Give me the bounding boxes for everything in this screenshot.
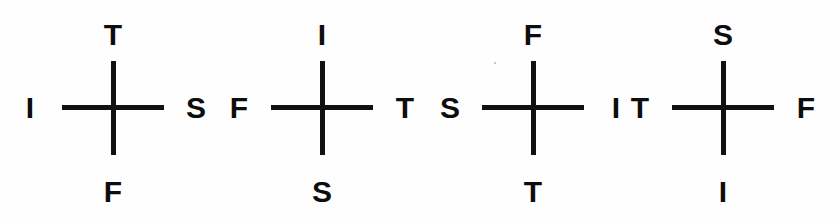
cross-1-left-label: I [26, 93, 34, 123]
cross-3-left-label: S [440, 93, 460, 123]
cross-1-top-label: T [104, 20, 122, 50]
cross-3-top-label: F [524, 20, 542, 50]
cross-1-horizontal-line [62, 105, 164, 110]
cross-diagram-1: T I S F [8, 0, 218, 219]
cross-2-top-label: I [318, 20, 326, 50]
cross-4-right-label: F [797, 93, 815, 123]
cross-1-bottom-label: F [104, 177, 122, 207]
cross-diagram-2: I F T S [217, 0, 427, 219]
cross-diagram-4: S T F I [618, 0, 828, 219]
cross-2-right-label: T [396, 93, 414, 123]
cross-3-horizontal-line [482, 105, 584, 110]
cross-3-bottom-label: T [524, 177, 542, 207]
cross-4-horizontal-line [672, 105, 774, 110]
cross-diagram-3: F S I T [428, 0, 638, 219]
cross-diagram-canvas: T I S F I F T S F S I T S T F I [0, 0, 839, 219]
cross-4-top-label: S [713, 20, 733, 50]
cross-4-bottom-label: I [719, 177, 727, 207]
cross-4-left-label: T [631, 93, 649, 123]
cross-2-horizontal-line [271, 105, 373, 110]
cross-2-left-label: F [230, 93, 248, 123]
cross-1-right-label: S [186, 93, 206, 123]
cross-2-bottom-label: S [312, 177, 332, 207]
scan-speck [494, 62, 496, 64]
